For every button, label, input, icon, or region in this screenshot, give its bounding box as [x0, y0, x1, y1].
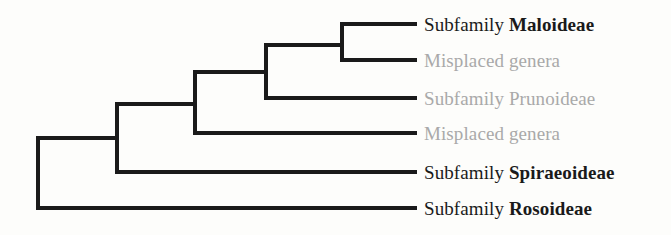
tip-label-misplaced-genera-upper: Misplaced genera — [424, 51, 560, 70]
tip-taxon-prunoideae: Prunoideae — [509, 88, 595, 109]
cladogram-figure: Subfamily Maloideae Misplaced genera Sub… — [0, 0, 671, 235]
tip-taxon-maloideae: Maloideae — [509, 14, 594, 35]
tip-label-rosoideae: Subfamily Rosoideae — [424, 199, 592, 218]
tip-taxon-spiraeoideae: Spiraeoideae — [509, 162, 615, 183]
tip-label-prunoideae: Subfamily Prunoideae — [424, 89, 595, 108]
tip-taxon-misplaced-genera-upper: Misplaced genera — [424, 50, 560, 71]
tip-rank-prefix-prunoideae: Subfamily — [424, 88, 509, 109]
tip-label-misplaced-genera-lower: Misplaced genera — [424, 124, 560, 143]
tip-rank-prefix-maloideae: Subfamily — [424, 14, 509, 35]
tip-taxon-misplaced-genera-lower: Misplaced genera — [424, 123, 560, 144]
tip-label-maloideae: Subfamily Maloideae — [424, 15, 594, 34]
tip-label-spiraeoideae: Subfamily Spiraeoideae — [424, 163, 615, 182]
tip-taxon-rosoideae: Rosoideae — [509, 198, 592, 219]
tip-rank-prefix-spiraeoideae: Subfamily — [424, 162, 509, 183]
tip-rank-prefix-rosoideae: Subfamily — [424, 198, 509, 219]
